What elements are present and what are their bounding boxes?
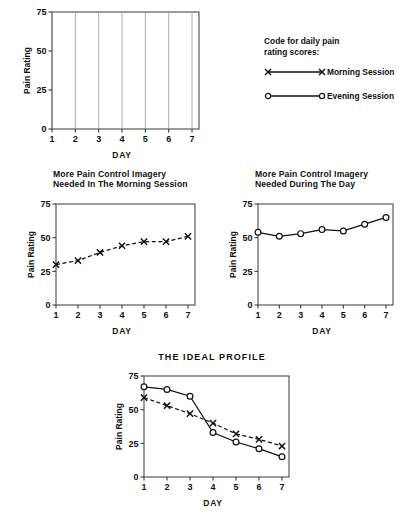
x-tick-label: 6	[362, 310, 367, 320]
circle-marker	[276, 233, 282, 239]
circle-marker	[298, 231, 304, 237]
x-axis-title: DAY	[112, 150, 131, 160]
legend-label-evening: Evening Session	[327, 91, 394, 101]
morning-session-chart: More Pain Control ImageryNeeded In The M…	[22, 168, 222, 338]
x-tick-label: 5	[141, 310, 146, 320]
x-tick-label: 3	[187, 482, 192, 492]
cross-marker	[97, 249, 103, 255]
y-axis-title: Pain Rating	[228, 231, 238, 278]
series-line-morning-session	[144, 398, 282, 446]
circle-marker	[187, 393, 193, 399]
y-axis-title: Pain Rating	[22, 47, 32, 94]
x-tick-label: 5	[233, 482, 238, 492]
x-tick-label: 7	[189, 134, 194, 144]
x-tick-label: 2	[277, 310, 282, 320]
y-tick-label: 25	[40, 267, 50, 277]
circle-marker	[319, 227, 325, 233]
circle-marker	[256, 446, 262, 452]
y-tick-label: 25	[242, 267, 252, 277]
y-tick-label: 75	[40, 199, 50, 209]
y-tick-label: 25	[128, 439, 138, 449]
y-tick-label: 50	[242, 233, 252, 243]
x-tick-label: 3	[298, 310, 303, 320]
plot-frame	[52, 12, 199, 129]
cross-marker	[210, 420, 216, 426]
ideal-profile-chart-svg: THE IDEAL PROFILE02550751234567DAYPain R…	[104, 350, 324, 522]
x-tick-label: 6	[166, 134, 171, 144]
blank-grid-chart-svg: 02550751234567DAYPain Rating	[20, 2, 230, 152]
x-tick-label: 3	[96, 134, 101, 144]
x-axis-title: DAY	[312, 326, 331, 336]
x-tick-label: 7	[185, 310, 190, 320]
cross-marker	[164, 403, 170, 409]
y-tick-label: 75	[128, 371, 138, 381]
x-axis-title: DAY	[203, 498, 222, 508]
circle-marker	[362, 221, 368, 227]
x-tick-label: 1	[141, 482, 146, 492]
legend-heading: Code for daily pain rating scores:	[264, 36, 416, 57]
legend-label-morning: Morning Session	[327, 67, 394, 77]
y-tick-label: 0	[45, 300, 50, 310]
circle-marker	[233, 439, 239, 445]
legend: Code for daily pain rating scores: Morni…	[264, 36, 416, 102]
y-tick-label: 50	[128, 405, 138, 415]
y-axis-title: Pain Rating	[114, 403, 124, 450]
during-the-day-chart-svg: More Pain Control ImageryNeeded During T…	[224, 168, 418, 338]
y-tick-label: 0	[133, 472, 138, 482]
x-tick-label: 1	[53, 310, 58, 320]
x-tick-label: 4	[319, 310, 324, 320]
circle-marker	[255, 229, 261, 235]
y-tick-label: 0	[41, 124, 46, 134]
x-tick-label: 5	[143, 134, 148, 144]
x-tick-label: 2	[75, 310, 80, 320]
x-tick-label: 4	[119, 310, 124, 320]
ideal-profile-chart: THE IDEAL PROFILE02550751234567DAYPain R…	[104, 350, 324, 522]
x-tick-label: 4	[210, 482, 215, 492]
x-tick-label: 2	[164, 482, 169, 492]
circle-marker	[319, 93, 324, 98]
plot-frame	[56, 204, 195, 305]
y-tick-label: 50	[36, 46, 46, 56]
cross-marker	[119, 243, 125, 249]
chart-title: Needed During The Day	[255, 179, 355, 189]
cross-marker	[187, 411, 193, 417]
y-tick-label: 75	[36, 7, 46, 17]
series-line-morning-session	[56, 236, 188, 264]
x-tick-label: 5	[341, 310, 346, 320]
cross-marker	[279, 443, 285, 449]
x-tick-label: 1	[49, 134, 54, 144]
legend-sample-morning	[264, 66, 326, 78]
y-tick-label: 25	[36, 85, 46, 95]
circle-marker	[210, 430, 216, 436]
y-axis-title: Pain Rating	[26, 231, 36, 278]
circle-marker	[383, 215, 389, 221]
circle-marker	[265, 93, 270, 98]
circle-marker	[141, 384, 147, 390]
legend-sample-evening	[264, 90, 326, 102]
x-tick-label: 4	[119, 134, 124, 144]
blank-grid-chart: 02550751234567DAYPain Rating	[20, 2, 230, 152]
plot-frame	[258, 204, 393, 305]
x-axis-title: DAY	[112, 326, 131, 336]
chart-title: THE IDEAL PROFILE	[158, 352, 266, 362]
chart-title: More Pain Control Imagery	[53, 169, 166, 179]
x-tick-label: 3	[97, 310, 102, 320]
circle-marker	[340, 228, 346, 234]
legend-entry-morning: Morning Session	[264, 66, 416, 78]
y-tick-label: 50	[40, 233, 50, 243]
circle-marker	[164, 387, 170, 393]
x-tick-label: 6	[256, 482, 261, 492]
x-tick-label: 7	[383, 310, 388, 320]
morning-session-chart-svg: More Pain Control ImageryNeeded In The M…	[22, 168, 222, 338]
x-tick-label: 1	[255, 310, 260, 320]
chart-title: More Pain Control Imagery	[255, 169, 368, 179]
chart-title: Needed In The Morning Session	[53, 179, 188, 189]
during-the-day-chart: More Pain Control ImageryNeeded During T…	[224, 168, 418, 338]
y-tick-label: 75	[242, 199, 252, 209]
x-tick-label: 2	[73, 134, 78, 144]
y-tick-label: 0	[247, 300, 252, 310]
x-tick-label: 7	[279, 482, 284, 492]
legend-entry-evening: Evening Session	[264, 90, 416, 102]
x-tick-label: 6	[163, 310, 168, 320]
circle-marker	[279, 454, 285, 460]
